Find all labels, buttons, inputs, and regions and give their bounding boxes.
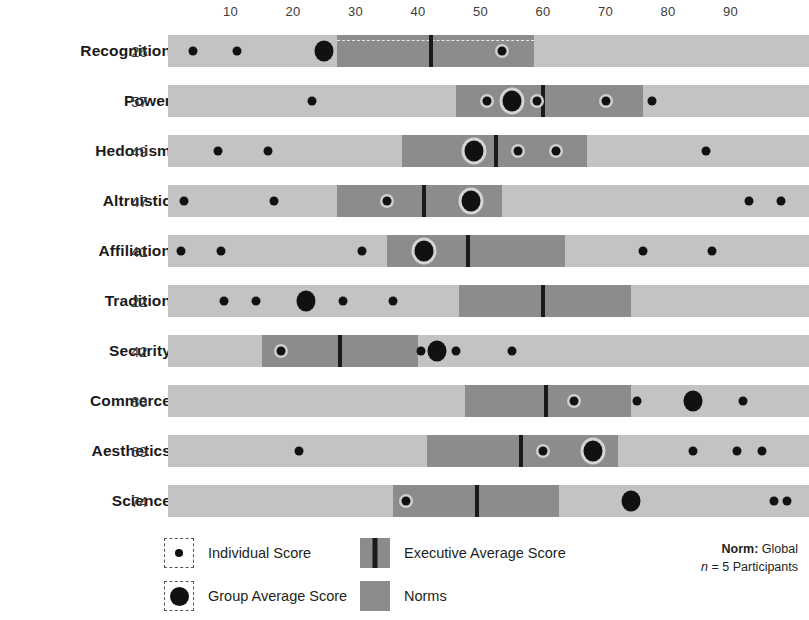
executive-average-marker <box>429 35 433 67</box>
row-value-power: 57 <box>131 93 161 110</box>
individual-score-dot <box>507 347 516 356</box>
row-track <box>168 335 809 367</box>
individual-score-dot <box>782 497 791 506</box>
individual-score-dot <box>220 297 229 306</box>
legend-label-executive-average-score: Executive Average Score <box>404 545 566 561</box>
individual-score-dot <box>389 297 398 306</box>
chart-row: Power57 <box>0 76 809 126</box>
legend-item-individual-score: Individual Score <box>164 538 311 568</box>
chart-row: Affiliation41 <box>0 226 809 276</box>
norm-note-n-value: = 5 Participants <box>711 560 798 574</box>
executive-average-marker <box>541 285 545 317</box>
axis-tick-80: 80 <box>661 4 676 19</box>
row-track <box>168 35 809 67</box>
individual-score-dot <box>179 197 188 206</box>
individual-score-dot <box>551 147 560 156</box>
individual-score-dot <box>632 397 641 406</box>
individual-score-dot <box>701 147 710 156</box>
legend-label-norms: Norms <box>404 588 447 604</box>
row-track <box>168 485 809 517</box>
norms-swatch-icon <box>360 581 390 611</box>
individual-score-dot <box>276 347 285 356</box>
individual-score-dot <box>482 97 491 106</box>
legend-item-executive-average-score: Executive Average Score <box>360 538 566 568</box>
norm-note-value: Global <box>762 542 798 556</box>
row-value-hedonism: 49 <box>131 143 161 160</box>
executive-average-marker <box>519 435 523 467</box>
axis-tick-20: 20 <box>286 4 301 19</box>
chart-row: Altruistic47 <box>0 176 809 226</box>
individual-score-dot <box>745 197 754 206</box>
group-average-score-swatch-icon <box>164 581 194 611</box>
axis-tick-70: 70 <box>598 4 613 19</box>
row-track <box>168 385 809 417</box>
chart-legend: Individual Score Group Average Score Exe… <box>0 526 809 620</box>
individual-score-dot <box>514 147 523 156</box>
individual-score-dot <box>232 47 241 56</box>
x-axis: 102030405060708090 <box>0 0 809 26</box>
group-average-dot <box>465 141 484 162</box>
group-average-dot <box>502 91 521 112</box>
row-value-recognition: 26 <box>131 43 161 60</box>
chart-row: Security42 <box>0 326 809 376</box>
row-track <box>168 235 809 267</box>
individual-score-dot <box>307 97 316 106</box>
individual-score-dot <box>757 447 766 456</box>
individual-score-dot <box>251 297 260 306</box>
individual-score-dot <box>451 347 460 356</box>
row-value-commerce: 83 <box>131 393 161 410</box>
individual-score-dot <box>770 497 779 506</box>
group-average-dot <box>584 441 603 462</box>
group-average-dot <box>462 191 481 212</box>
individual-score-dot <box>176 247 185 256</box>
axis-tick-90: 90 <box>723 4 738 19</box>
norm-band-dash <box>337 40 534 41</box>
legend-item-norms: Norms <box>360 581 447 611</box>
axis-tick-40: 40 <box>411 4 426 19</box>
values-profile-chart: 102030405060708090 Recognition26Power57H… <box>0 0 809 620</box>
individual-score-dot <box>339 297 348 306</box>
individual-score-dot <box>382 197 391 206</box>
individual-score-dot <box>417 347 426 356</box>
row-track <box>168 135 809 167</box>
individual-score-dot <box>689 447 698 456</box>
individual-score-dot <box>601 97 610 106</box>
norm-note-line2: n = 5 Participants <box>701 558 798 576</box>
executive-average-marker <box>475 485 479 517</box>
chart-row: Commerce83 <box>0 376 809 426</box>
group-average-dot <box>427 341 446 362</box>
individual-score-dot <box>189 47 198 56</box>
executive-average-score-swatch-icon <box>360 538 390 568</box>
executive-average-marker <box>422 185 426 217</box>
row-value-altruistic: 47 <box>131 193 161 210</box>
executive-average-marker <box>338 335 342 367</box>
individual-score-dot <box>214 147 223 156</box>
chart-row: Hedonism49 <box>0 126 809 176</box>
individual-score-dot <box>639 247 648 256</box>
chart-rows: Recognition26Power57Hedonism49Altruistic… <box>0 26 809 526</box>
individual-score-dot <box>532 97 541 106</box>
individual-score-dot <box>776 197 785 206</box>
norm-note-label: Norm: <box>722 542 759 556</box>
row-value-security: 42 <box>131 343 161 360</box>
legend-label-group-average-score: Group Average Score <box>208 588 347 604</box>
chart-row: Recognition26 <box>0 26 809 76</box>
legend-item-group-average-score: Group Average Score <box>164 581 347 611</box>
row-track <box>168 435 809 467</box>
row-value-aesthetics: 69 <box>131 443 161 460</box>
chart-row: Tradition22 <box>0 276 809 326</box>
individual-score-dot <box>264 147 273 156</box>
group-average-dot <box>621 491 640 512</box>
executive-average-marker <box>544 385 548 417</box>
axis-tick-10: 10 <box>223 4 238 19</box>
chart-row: Science74 <box>0 476 809 526</box>
row-track <box>168 85 809 117</box>
individual-score-dot <box>217 247 226 256</box>
individual-score-dot <box>707 247 716 256</box>
norm-note-n-prefix: n <box>701 560 708 574</box>
individual-score-dot <box>357 247 366 256</box>
legend-label-individual-score: Individual Score <box>208 545 311 561</box>
chart-row: Aesthetics69 <box>0 426 809 476</box>
individual-score-swatch-icon <box>164 538 194 568</box>
row-value-tradition: 22 <box>131 293 161 310</box>
